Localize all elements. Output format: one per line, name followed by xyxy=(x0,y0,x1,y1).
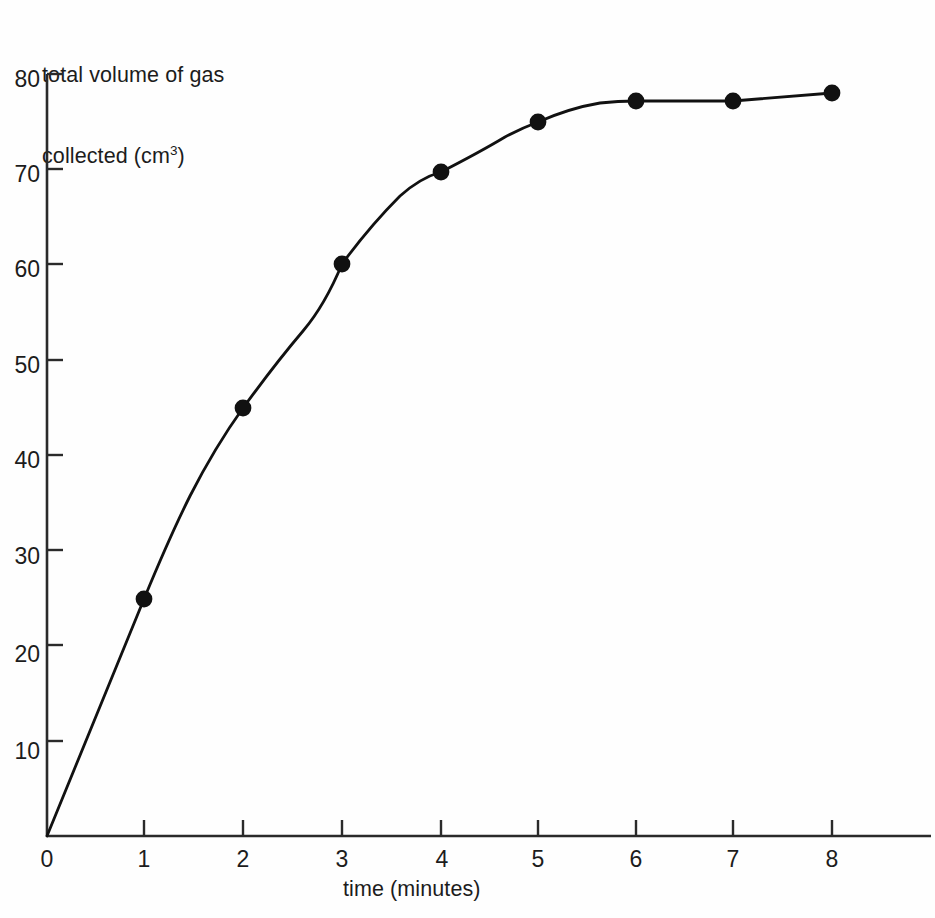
y-axis-ticks xyxy=(47,74,63,741)
data-point-t2 xyxy=(235,400,252,417)
data-point-t4 xyxy=(433,164,450,181)
x-axis-ticks xyxy=(144,820,832,836)
data-series-total-volume xyxy=(47,85,840,836)
chart-figure: total volume of gas collected (cm3) time… xyxy=(0,0,935,918)
data-point-t7 xyxy=(725,93,742,110)
data-point-t5 xyxy=(530,114,547,131)
axes xyxy=(47,74,931,836)
data-point-markers xyxy=(136,85,841,608)
data-point-t8 xyxy=(824,85,841,102)
data-point-t3 xyxy=(334,256,351,273)
series-line-path xyxy=(47,93,832,836)
plot-area xyxy=(0,0,935,918)
data-point-t6 xyxy=(628,93,645,110)
data-point-t1 xyxy=(136,591,153,608)
